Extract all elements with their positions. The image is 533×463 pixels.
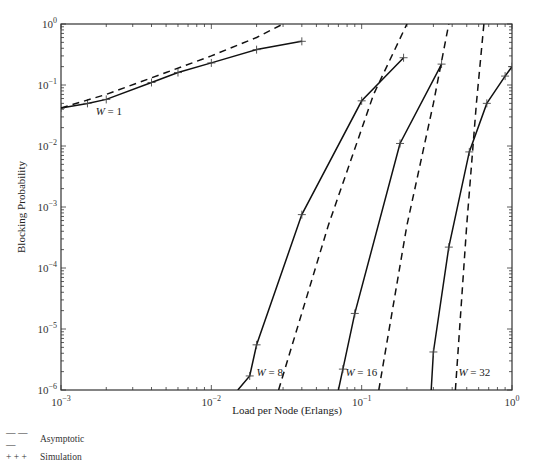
y-tick-label: 10−6: [37, 382, 57, 396]
plus-marker-icon: [298, 37, 306, 45]
asymptotic-curve: [279, 24, 407, 390]
curve-label: W = 32: [458, 366, 490, 378]
x-tick-label: 10−1: [352, 394, 372, 408]
plus-marker-icon: [351, 309, 359, 317]
curve-label: W = 16: [345, 366, 377, 378]
plot-frame: [61, 24, 512, 390]
plus-marker-icon: [207, 59, 215, 67]
plus-marker-icon: [298, 211, 306, 219]
x-tick-label: 10−3: [51, 394, 71, 408]
plus-marker-icon: [102, 95, 110, 103]
curve-label: W = 1: [96, 105, 122, 117]
y-tick-label: 10−4: [37, 260, 57, 274]
asymptotic-curve: [61, 24, 283, 108]
plus-marker-icon: + + +: [6, 451, 36, 463]
legend-item-simulation: + + + Simulation: [6, 451, 84, 463]
plus-marker-icon: [396, 139, 404, 147]
legend: — — — Asymptotic + + + Simulation: [6, 427, 84, 463]
dashed-line-icon: — — —: [6, 427, 36, 451]
y-tick-label: 10−1: [37, 77, 57, 91]
legend-label-asymptotic: Asymptotic: [40, 433, 84, 445]
asymptotic-curve: [455, 24, 484, 390]
plus-marker-icon: [438, 60, 446, 68]
asymptotic-curve: [379, 24, 449, 390]
legend-label-simulation: Simulation: [40, 451, 82, 463]
y-tick-label: 10−2: [37, 138, 57, 152]
simulation-curve: [431, 67, 512, 390]
simulation-curve: [61, 41, 302, 108]
plus-marker-icon: [253, 46, 261, 54]
plot-area: 10−310−210−110010−610−510−410−310−210−11…: [37, 16, 519, 408]
plus-marker-icon: [429, 348, 437, 356]
y-tick-label: 10−5: [37, 321, 57, 335]
curve-label: W = 8: [257, 366, 284, 378]
x-tick-label: 100: [505, 394, 520, 408]
simulation-curve: [338, 64, 441, 390]
legend-item-asymptotic: — — — Asymptotic: [6, 427, 84, 451]
plus-marker-icon: [148, 78, 156, 86]
plus-marker-icon: [483, 99, 491, 107]
series-group: [57, 24, 516, 390]
y-tick-label: 10−3: [37, 199, 57, 213]
x-tick-label: 10−2: [202, 394, 222, 408]
y-tick-label: 100: [42, 16, 57, 30]
chart-svg: 10−310−210−110010−610−510−410−310−210−11…: [0, 0, 533, 463]
plus-marker-icon: [253, 341, 261, 349]
y-axis-title: Blocking Probability: [15, 161, 27, 253]
x-axis-title: Load per Node (Erlangs): [232, 404, 342, 417]
plus-marker-icon: [445, 243, 453, 251]
